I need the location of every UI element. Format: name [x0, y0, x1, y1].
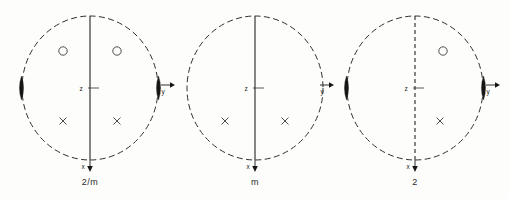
axis-label-y-panel-1: y [161, 88, 165, 96]
axis-label-z-panel-1: z [79, 85, 82, 92]
x-axis-arrow-head-panel-2 [252, 166, 258, 172]
y-axis-arrow-head-panel-3 [495, 82, 500, 88]
panel-2-over-m: z y x 2/m [19, 16, 175, 187]
point-group-label-2: m [251, 177, 259, 187]
two-fold-axis-lens-right-panel-3 [481, 76, 485, 100]
stereographic-projection-svg: z y x 2/m [0, 0, 509, 199]
pole-cross [222, 118, 229, 125]
pole-open-circle [439, 47, 447, 55]
pole-cross [282, 118, 289, 125]
two-fold-axis-lens-right-panel-1 [156, 76, 160, 100]
pole-cross [60, 118, 67, 125]
pole-open-circle [59, 47, 67, 55]
axis-label-x-panel-2: x [246, 163, 250, 170]
panel-2: z y x 2 [344, 16, 500, 187]
point-group-label-1: 2/m [82, 177, 99, 187]
x-axis-arrow-head-panel-1 [87, 166, 93, 172]
pole-cross [437, 118, 444, 125]
y-axis-arrow-head-panel-1 [170, 82, 175, 88]
axis-label-z-panel-3: z [404, 85, 407, 92]
point-group-label-3: 2 [412, 177, 418, 187]
x-axis-arrow-head-panel-3 [412, 166, 418, 172]
axis-label-x-panel-3: x [406, 163, 410, 170]
stereographic-figure: z y x 2/m [0, 0, 509, 199]
panel-m: z y x m [187, 16, 334, 187]
axis-label-y-panel-2: y [320, 88, 324, 96]
pole-cross [114, 118, 121, 125]
axis-label-z-panel-2: z [244, 85, 247, 92]
axis-label-y-panel-3: y [486, 88, 490, 96]
axis-label-x-panel-1: x [81, 163, 85, 170]
y-axis-arrow-head-panel-2 [329, 82, 334, 88]
pole-open-circle [113, 47, 121, 55]
